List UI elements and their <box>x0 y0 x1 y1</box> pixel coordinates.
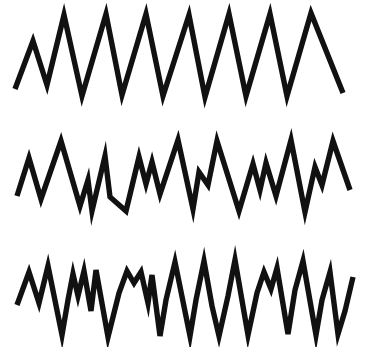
waveform-canvas <box>0 0 375 347</box>
waveform-figure <box>0 0 375 347</box>
